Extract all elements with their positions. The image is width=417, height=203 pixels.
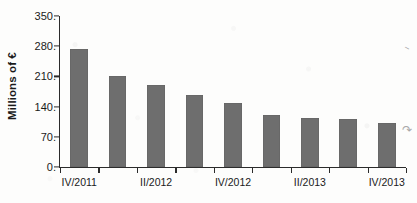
x-axis-tick-mark [329,168,330,173]
x-axis-tick-label: IV/2011 [62,176,97,188]
x-axis-tick-label: II/2012 [140,176,172,188]
y-axis-tick-mark [54,46,59,47]
bar [339,119,357,167]
bar [224,103,242,167]
x-axis-tick-mark [291,168,292,173]
plot-area [60,16,406,167]
x-axis-tick-mark [175,168,176,173]
bar [186,95,204,167]
y-axis-tick-mark [54,76,59,77]
y-axis-tick-label: 140. [20,101,56,113]
x-axis-tick-mark [252,168,253,173]
x-axis-tick-mark [214,168,215,173]
y-axis-tick-label: 280. [20,40,56,52]
bar [378,123,396,167]
y-axis-tick-label: 210. [20,70,56,82]
x-axis-tick-label: II/2013 [294,176,326,188]
y-axis-tick-mark [54,166,59,167]
bar-chart: Millions of € 0.70.140.210.280.350. − ↷ … [0,0,417,203]
x-axis-tick-mark [60,168,61,173]
y-axis-tick-mark [54,106,59,107]
y-axis-tick-mark [54,136,59,137]
y-axis-tick-mark [54,15,59,16]
bar [147,85,165,167]
x-axis-tick-mark [137,168,138,173]
bar [263,115,281,167]
x-axis-tick-mark [406,168,407,173]
x-axis-tick-label: IV/2012 [215,176,251,188]
y-axis-tick-label: 350. [20,10,56,22]
x-axis-tick-mark [368,168,369,173]
y-axis-tick-label: 70. [20,131,56,143]
y-axis-tick-label: 0. [20,161,56,173]
x-axis-line [59,167,406,168]
x-axis-tick-label: IV/2013 [369,176,405,188]
y-axis-tick-labels: 0.70.140.210.280.350. [20,0,56,203]
bar [109,76,127,167]
bar [70,49,88,167]
x-axis-tick-mark [98,168,99,173]
bar [301,118,319,167]
